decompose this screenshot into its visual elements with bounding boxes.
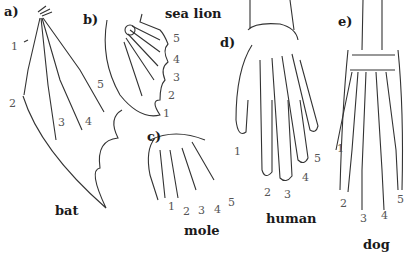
human-digit-3: 3 xyxy=(284,188,291,201)
panel-label-b: b) xyxy=(83,12,98,27)
sea-lion-digit-2: 2 xyxy=(168,89,175,102)
panel-label-e: e) xyxy=(338,14,352,29)
sea-lion-digit-3: 3 xyxy=(173,71,180,84)
sea-lion-digit-4: 4 xyxy=(173,53,180,66)
human-digit-5: 5 xyxy=(314,152,321,165)
panel-label-d: d) xyxy=(220,35,235,50)
human-digit-4: 4 xyxy=(302,171,309,184)
bat-digit-5: 5 xyxy=(97,78,104,91)
human-hand-illustration xyxy=(236,0,318,181)
caption-dog: dog xyxy=(363,237,390,252)
dog-digit-2: 2 xyxy=(340,197,347,210)
panel-label-c: c) xyxy=(147,129,161,144)
mole-digit-1: 1 xyxy=(168,200,175,213)
panel-label-a: a) xyxy=(4,4,19,19)
dog-paw-illustration xyxy=(336,0,403,210)
caption-sea-lion: sea lion xyxy=(165,6,222,21)
caption-human: human xyxy=(266,211,317,226)
caption-bat: bat xyxy=(55,203,79,218)
sea-lion-flipper-illustration xyxy=(105,14,168,116)
dog-digit-4: 4 xyxy=(381,209,388,222)
mole-digit-3: 3 xyxy=(198,204,205,217)
sea-lion-digit-5: 5 xyxy=(173,32,180,45)
dog-digit-3: 3 xyxy=(360,212,367,225)
bat-digit-4: 4 xyxy=(85,115,92,128)
bat-wing-illustration xyxy=(23,6,122,208)
mole-digit-2: 2 xyxy=(183,205,190,218)
bat-digit-3: 3 xyxy=(58,116,65,129)
sea-lion-digit-1: 1 xyxy=(163,107,170,120)
human-digit-1: 1 xyxy=(234,145,241,158)
caption-mole: mole xyxy=(184,223,220,238)
bat-digit-1: 1 xyxy=(11,40,18,53)
mole-digit-5: 5 xyxy=(228,196,235,209)
dog-digit-5: 5 xyxy=(397,193,404,206)
mole-digit-4: 4 xyxy=(214,203,221,216)
human-digit-2: 2 xyxy=(264,186,271,199)
dog-digit-1: 1 xyxy=(337,142,344,155)
bat-digit-2: 2 xyxy=(9,97,16,110)
